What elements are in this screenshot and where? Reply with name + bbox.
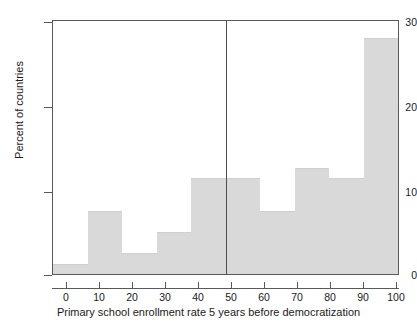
- x-tick-mark: [297, 282, 298, 289]
- bar-90-100: [364, 38, 399, 274]
- histogram-figure: 30 20 10 0 Percent of countries 0 10 20 …: [0, 0, 417, 327]
- reference-vline-50: [226, 21, 227, 274]
- y-axis-label: Percent of countries: [13, 35, 25, 185]
- x-tick-mark: [132, 282, 133, 289]
- x-tick-mark: [66, 282, 67, 289]
- x-tick-mark: [99, 282, 100, 289]
- bar-70-80: [295, 168, 330, 274]
- bar-60-70: [260, 211, 295, 274]
- x-tick-mark: [330, 282, 331, 289]
- x-tick-mark: [165, 282, 166, 289]
- bar-40-50: [191, 178, 226, 274]
- bar-10-20: [88, 211, 123, 274]
- bar-80-90: [329, 178, 364, 274]
- x-tick-mark: [264, 282, 265, 289]
- y-tick-mark: [44, 275, 52, 276]
- x-axis-label: Primary school enrollment rate 5 years b…: [0, 306, 417, 318]
- y-tick-mark: [44, 107, 52, 108]
- bar-0-10: [53, 264, 88, 274]
- y-tick-mark: [44, 192, 52, 193]
- x-tick-label-100: 100: [376, 291, 416, 303]
- bar-30-40: [157, 232, 192, 274]
- y-tick-mark: [44, 22, 52, 23]
- x-tick-mark: [363, 282, 364, 289]
- x-axis: [52, 288, 399, 289]
- x-tick-mark: [198, 282, 199, 289]
- x-tick-mark: [231, 282, 232, 289]
- bar-20-30: [122, 253, 157, 274]
- plot-area: [52, 20, 399, 275]
- bar-50-60: [226, 178, 261, 274]
- x-tick-mark: [396, 282, 397, 289]
